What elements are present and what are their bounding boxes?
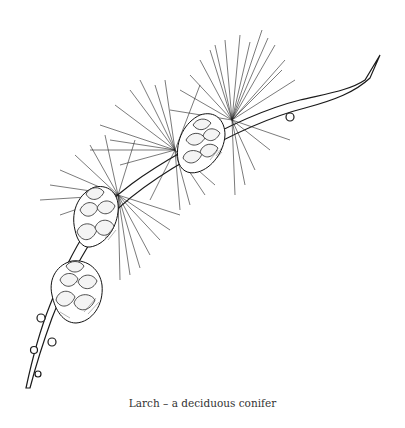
cone-middle [74,187,119,248]
cone-top [177,114,225,173]
larch-illustration [0,0,405,390]
cone-bottom [51,261,102,323]
figure-caption: Larch – a deciduous conifer [0,397,405,409]
